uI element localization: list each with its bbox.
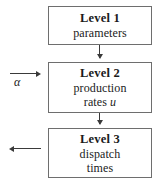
level-2-variable: u bbox=[110, 95, 116, 109]
level-3-title: Level 3 bbox=[80, 132, 120, 147]
arrow-level3-output-icon bbox=[10, 148, 41, 150]
arrow-head-left bbox=[9, 146, 14, 152]
level-2-line-2: rates u bbox=[84, 95, 116, 109]
level-2-line-1: production bbox=[74, 81, 127, 95]
alpha-label: α bbox=[14, 75, 20, 89]
level-2-title: Level 2 bbox=[80, 66, 120, 81]
level-1-box: Level 1 parameters bbox=[48, 6, 152, 45]
arrow-shaft bbox=[14, 148, 41, 149]
arrow-head-down bbox=[97, 54, 103, 59]
level-1-line-1: parameters bbox=[73, 26, 127, 40]
arrow-head-down bbox=[97, 120, 103, 125]
level-2-line-2-text: rates bbox=[84, 95, 107, 109]
arrow-level2-to-level3-icon bbox=[99, 113, 101, 124]
arrow-head-right bbox=[36, 71, 41, 77]
level-1-title: Level 1 bbox=[80, 11, 120, 26]
hierarchical-level-diagram: Level 1 parameters Level 2 production ra… bbox=[0, 0, 162, 183]
arrow-level1-to-level2-icon bbox=[99, 45, 101, 58]
level-2-box: Level 2 production rates u bbox=[48, 62, 152, 113]
level-3-line-2: times bbox=[87, 161, 114, 175]
level-3-line-1: dispatch bbox=[80, 147, 121, 161]
level-3-box: Level 3 dispatch times bbox=[48, 128, 152, 178]
